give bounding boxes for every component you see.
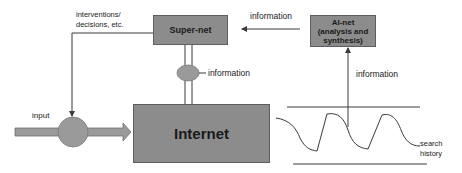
input-label: input <box>32 111 49 121</box>
search-history-label-line1: search <box>420 139 443 149</box>
ai-net-title: AI-net <box>332 18 355 27</box>
super-net-label: Super-net <box>169 25 211 35</box>
information-node <box>177 65 199 81</box>
information-flow-diagram: Super-net AI-net (analysis and synthesis… <box>0 0 462 173</box>
interventions-label-line2: decisions, etc. <box>76 20 124 30</box>
internet-node: Internet <box>133 104 270 163</box>
ai-net-node: AI-net (analysis and synthesis) <box>310 15 376 47</box>
info-top-label: information <box>250 11 292 21</box>
info-right-label: information <box>356 69 398 79</box>
search-history-label-line2: history <box>420 149 442 159</box>
input-junction-node <box>58 117 88 147</box>
interventions-label-line1: interventions/ <box>76 10 121 20</box>
info-middle-label: information <box>208 68 250 78</box>
ai-net-subtitle-1: (analysis and <box>318 27 369 36</box>
internet-label: Internet <box>174 125 229 142</box>
ai-net-subtitle-2: synthesis) <box>323 36 363 45</box>
super-net-node: Super-net <box>153 15 228 45</box>
